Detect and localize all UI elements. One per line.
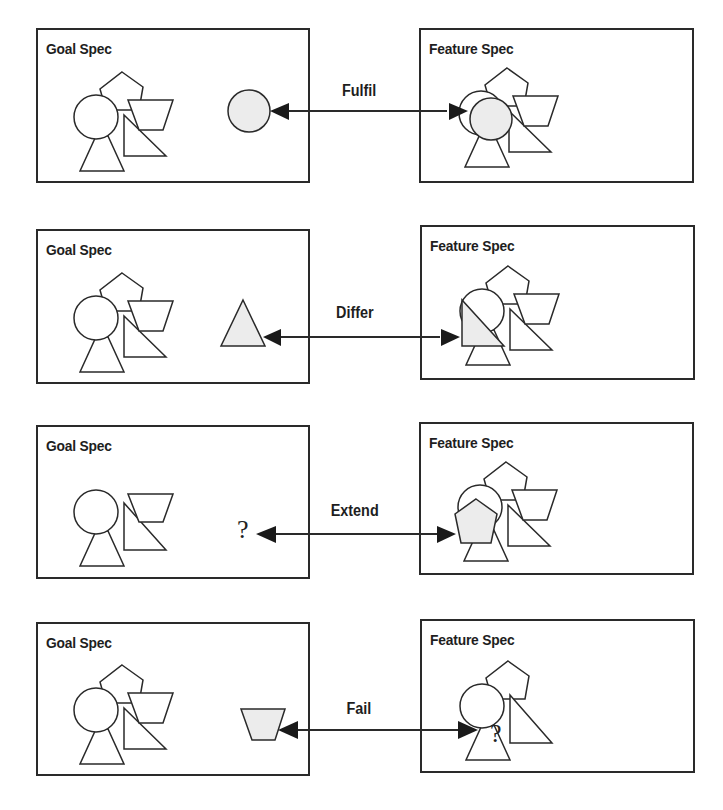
unknown-question-mark: ? (237, 515, 249, 544)
goal-shape-cluster (74, 490, 173, 566)
goal-shape-cluster (74, 72, 173, 171)
unknown-question-mark: ? (490, 719, 502, 748)
arrowhead-left-icon (263, 329, 281, 346)
arrowhead-right-icon (437, 526, 456, 543)
feature-shape-cluster (460, 661, 552, 760)
goal-shape-cluster (74, 273, 173, 372)
diagram-shapes: ? ? (0, 0, 723, 810)
arrowhead-left-icon (256, 526, 276, 543)
goal-triangle-icon (221, 300, 265, 346)
arrowhead-left-icon (270, 103, 289, 120)
feature-circle-icon (470, 98, 512, 140)
goal-trapezoid-icon (241, 709, 285, 740)
goal-circle-icon (228, 90, 270, 132)
arrowhead-right-icon (441, 329, 460, 346)
goal-shape-cluster (74, 665, 173, 764)
